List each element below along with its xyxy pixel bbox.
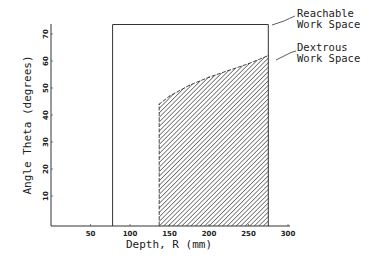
y-tick-label: 30 xyxy=(42,137,50,147)
x-tick-label: 150 xyxy=(162,230,177,238)
dextrous-point xyxy=(228,70,229,71)
y-tick-label: 70 xyxy=(42,29,50,39)
y-tick-label: 10 xyxy=(42,191,50,201)
annotation-reachable-leader xyxy=(272,16,295,25)
dextrous-work-space-fill xyxy=(159,56,268,226)
y-tick-label: 60 xyxy=(42,56,50,66)
x-axis-label: Depth, R (mm) xyxy=(126,238,212,251)
plot-area xyxy=(113,25,269,227)
dextrous-point xyxy=(189,85,190,86)
annotation-dextrous-line2: Work Space xyxy=(297,52,360,64)
x-tick-label: 100 xyxy=(123,230,138,238)
y-tick-label: 20 xyxy=(42,164,50,174)
y-tick-label: 50 xyxy=(42,83,50,93)
annotation-reachable-line2: Work Space xyxy=(297,18,360,30)
x-tick-label: 300 xyxy=(281,230,296,238)
x-tick-label: 200 xyxy=(202,230,217,238)
annotation-dextrous-leader xyxy=(276,51,296,60)
x-tick-label: 250 xyxy=(241,230,256,238)
dextrous-point xyxy=(248,63,249,64)
dextrous-point xyxy=(268,55,269,56)
chart: 50100150200250300 10203040506070 Depth, … xyxy=(0,0,389,266)
x-tick-label: 50 xyxy=(86,230,96,238)
annotation-dextrous: Dextrous Work Space xyxy=(276,41,360,64)
annotation-reachable: Reachable Work Space xyxy=(272,7,360,30)
dextrous-point xyxy=(159,104,160,105)
dextrous-point xyxy=(208,77,209,78)
y-axis-label: Angle Theta (degrees) xyxy=(21,55,34,194)
y-tick-label: 40 xyxy=(42,110,50,120)
dextrous-point xyxy=(169,96,170,97)
